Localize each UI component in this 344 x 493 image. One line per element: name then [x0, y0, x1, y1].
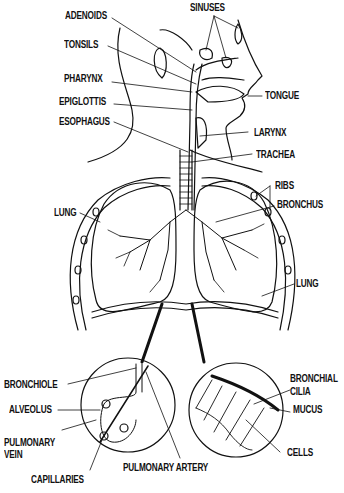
respiratory-diagram [0, 0, 344, 493]
larynx-shape [196, 118, 207, 148]
sinus-maxillary [222, 57, 232, 67]
right-lung [194, 181, 277, 312]
label-cells: CELLS [287, 447, 313, 458]
label-sinuses: SINUSES [190, 2, 225, 13]
label-pulmonary-artery: PULMONARY ARTERY [123, 462, 208, 473]
label-esophagus: ESOPHAGUS [59, 116, 110, 127]
label-bronchial: BRONCHIAL [290, 373, 338, 384]
label-tongue: TONGUE [265, 90, 299, 101]
label-lung-left: LUNG [54, 207, 77, 218]
alveoli-inset [81, 358, 175, 452]
label-pharynx: PHARYNX [64, 73, 103, 84]
label-larynx: LARYNX [254, 127, 286, 138]
label-pulmonary-vein-line2: VEIN [4, 449, 22, 460]
label-capillaries: CAPILLARIES [31, 474, 84, 485]
label-alveolus: ALVEOLUS [9, 404, 52, 415]
label-ribs: RIBS [275, 180, 294, 191]
label-mucus: MUCUS [293, 404, 322, 415]
ear [154, 48, 166, 78]
label-lung-right: LUNG [296, 278, 319, 289]
label-trachea: TRACHEA [256, 149, 295, 160]
label-bronchiole: BRONCHIOLE [4, 379, 57, 390]
label-epiglottis: EPIGLOTTIS [59, 96, 106, 107]
label-adenoids: ADENOIDS [65, 10, 107, 21]
cilia-inset [189, 363, 283, 457]
tongue-shape [196, 86, 244, 102]
label-bronchus: BRONCHUS [277, 199, 323, 210]
label-tonsils: TONSILS [64, 39, 98, 50]
label-cilia: CILIA [290, 386, 311, 397]
trachea-shape [180, 150, 192, 210]
left-lung [91, 183, 176, 312]
lungs [91, 181, 278, 362]
label-pulmonary-vein-line1: PULMONARY [4, 437, 55, 448]
